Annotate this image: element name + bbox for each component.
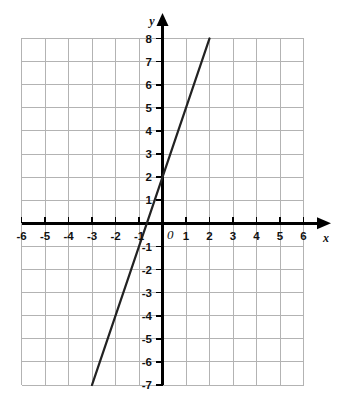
y-tick-label: 5 xyxy=(146,102,153,114)
y-tick-label: 6 xyxy=(146,79,152,91)
y-tick-label: 4 xyxy=(146,125,153,137)
y-tick-label: 7 xyxy=(146,56,152,68)
x-axis-label: x xyxy=(322,231,329,245)
x-tick-label: 6 xyxy=(300,230,306,242)
y-tick-label: -3 xyxy=(142,287,152,299)
origin-label: 0 xyxy=(167,227,174,242)
x-tick-label: -4 xyxy=(63,230,74,242)
x-tick-label: -2 xyxy=(110,230,120,242)
y-tick-label: 2 xyxy=(146,171,152,183)
y-tick-label: -6 xyxy=(142,356,152,368)
x-tick-label: 1 xyxy=(183,230,190,242)
y-tick-label: -4 xyxy=(142,310,153,322)
coordinate-plane-svg: -6 -5 -4 -3 -2 -1 1 2 3 4 5 6 8 7 6 5 4 … xyxy=(0,0,345,406)
x-tick-label: 2 xyxy=(206,230,212,242)
x-tick-label: 3 xyxy=(230,230,236,242)
x-tick-label: -5 xyxy=(40,230,51,242)
canvas-background xyxy=(0,0,345,406)
graph-figure: -6 -5 -4 -3 -2 -1 1 2 3 4 5 6 8 7 6 5 4 … xyxy=(0,0,345,406)
y-tick-label: -7 xyxy=(142,379,152,391)
y-tick-label: 1 xyxy=(146,194,153,206)
x-tick-label: -6 xyxy=(16,230,26,242)
y-tick-label: -1 xyxy=(142,241,153,253)
y-tick-label: 8 xyxy=(146,33,153,45)
y-tick-label: 3 xyxy=(146,148,152,160)
x-tick-label: 5 xyxy=(277,230,284,242)
y-tick-label: -5 xyxy=(142,333,153,345)
y-tick-label: -2 xyxy=(142,264,152,276)
x-tick-label: 4 xyxy=(253,230,260,242)
x-tick-label: -3 xyxy=(87,230,97,242)
y-axis-label: y xyxy=(147,14,155,28)
